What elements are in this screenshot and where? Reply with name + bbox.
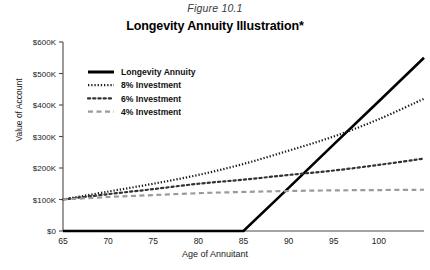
legend-label: 8% Investment xyxy=(121,80,181,90)
series-line xyxy=(63,58,424,231)
x-tick-label: 85 xyxy=(239,236,249,246)
x-tick-labels: 65707580859095100 xyxy=(58,236,386,246)
series-lines xyxy=(63,58,424,231)
x-tick-label: 95 xyxy=(329,236,339,246)
x-tick-label: 80 xyxy=(194,236,204,246)
y-tick-label: $0 xyxy=(47,227,56,236)
x-tick-label: 65 xyxy=(58,236,68,246)
y-tick-label: $200K xyxy=(33,164,57,173)
y-tick-label: $600K xyxy=(33,38,57,47)
y-tick-label: $500K xyxy=(33,70,57,79)
series-line xyxy=(63,159,424,200)
series-line xyxy=(63,99,424,200)
legend-label: Longevity Annuity xyxy=(121,67,196,77)
x-tick-label: 100 xyxy=(372,236,386,246)
legend: Longevity Annuity8% Investment6% Investm… xyxy=(88,67,196,117)
x-tick-label: 90 xyxy=(284,236,294,246)
y-tick-label: $400K xyxy=(33,101,57,110)
legend-label: 4% Investment xyxy=(121,107,181,117)
y-tick-labels: $0$100K$200K$300K$400K$500K$600K xyxy=(33,38,63,236)
y-tick-label: $300K xyxy=(33,133,57,142)
series-line xyxy=(63,190,424,200)
axis-lines xyxy=(63,42,424,231)
x-tick-label: 75 xyxy=(149,236,159,246)
chart-plot-area: $0$100K$200K$300K$400K$500K$600K 6570758… xyxy=(0,0,430,270)
y-tick-label: $100K xyxy=(33,196,57,205)
legend-label: 6% Investment xyxy=(121,94,181,104)
x-tick-label: 70 xyxy=(103,236,113,246)
